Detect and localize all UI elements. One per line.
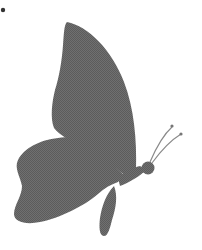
antenna-tip-2 xyxy=(179,132,182,135)
antenna-tip-1 xyxy=(170,124,173,127)
head xyxy=(142,162,155,175)
antenna-1 xyxy=(150,127,172,162)
butterfly-illustration xyxy=(0,0,202,250)
corner-dot xyxy=(1,8,5,12)
tail xyxy=(99,186,116,236)
